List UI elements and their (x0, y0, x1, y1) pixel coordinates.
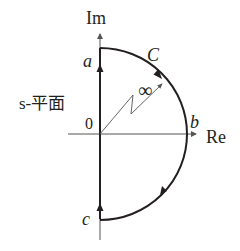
infinite-radius-line (100, 84, 162, 134)
contour-label: C (147, 45, 160, 65)
arrow-up-icon (97, 203, 104, 211)
infinity-label: ∞ (138, 79, 152, 101)
plane-label: s-平面 (19, 94, 65, 113)
arrow-up-icon (97, 64, 104, 72)
nyquist-contour-diagram: Im Re 0 a b c C ∞ s-平面 (0, 0, 240, 251)
point-a-label: a (83, 51, 92, 71)
origin-label: 0 (85, 115, 93, 132)
imaginary-axis-label: Im (86, 8, 106, 28)
real-axis-label: Re (206, 127, 226, 147)
point-b-label: b (190, 112, 199, 132)
point-c-label: c (82, 209, 90, 229)
arrow-clockwise-icon (154, 69, 163, 79)
